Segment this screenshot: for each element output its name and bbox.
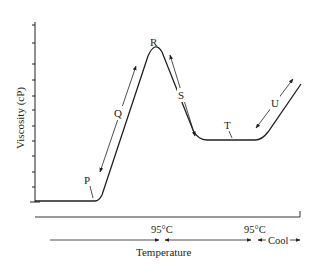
point-label-q: Q — [114, 107, 122, 119]
point-label-p: P — [84, 174, 90, 186]
point-label-t: T — [224, 119, 231, 131]
cool-label: Cool — [268, 235, 289, 246]
point-label-u: U — [271, 97, 279, 109]
y-axis-label: Viscosity (cP) — [14, 87, 27, 149]
y-axis: Viscosity (cP) — [14, 22, 40, 202]
x-axis-label: Temperature — [136, 246, 192, 258]
x-axis — [35, 211, 300, 217]
leader-p — [90, 186, 93, 198]
leader-t — [229, 131, 232, 138]
viscosity-diagram: Viscosity (cP) P Q R S T U 95°C 95°C Coo… — [0, 0, 319, 269]
temp-marker-1: 95°C — [151, 224, 173, 235]
point-label-s: S — [178, 89, 184, 101]
point-label-r: R — [150, 36, 158, 48]
viscosity-curve — [35, 47, 301, 201]
temp-marker-2: 95°C — [244, 224, 266, 235]
